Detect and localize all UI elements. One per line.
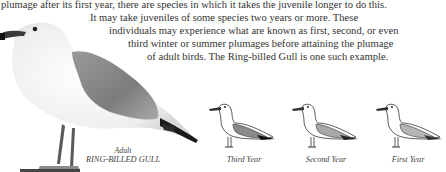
third-year-label: Third Year — [214, 155, 274, 164]
first-year-label: First Year — [378, 155, 438, 164]
second-year-gull-icon — [290, 99, 362, 151]
adult-species-label: RING-BILLED GULL — [78, 155, 168, 164]
first-year-gull-icon — [374, 99, 446, 151]
second-year-label: Second Year — [296, 155, 356, 164]
adult-caption-label: Adult — [78, 146, 168, 155]
third-year-gull-icon — [207, 99, 279, 151]
paragraph-line-1: plumage after its first year, there are … — [1, 0, 387, 11]
